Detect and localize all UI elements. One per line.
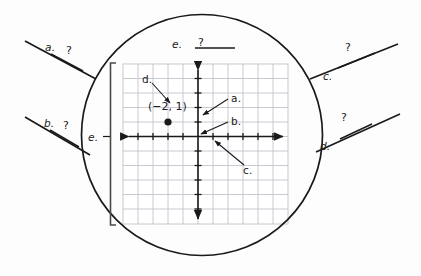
callout-label-c: c. [323, 70, 333, 82]
callout-blank-a[interactable]: ? [66, 44, 72, 57]
leader-a [25, 41, 96, 79]
coordinate-grid [123, 64, 288, 224]
figure-artwork [0, 0, 421, 276]
callout-label-e-left: e. [88, 131, 98, 143]
callout-label-d: d. [320, 140, 330, 152]
callout-label-e-top: e. [172, 38, 182, 50]
blank-line-b[interactable] [50, 130, 79, 147]
plotted-point-marker [164, 118, 171, 125]
inner-label-d: d. [142, 73, 152, 85]
blank-line-d[interactable] [340, 124, 372, 139]
figure-canvas: a. ? b. ? c. ? d. ? e. ? e. a. b. c. d. … [0, 0, 421, 276]
callout-blank-b[interactable]: ? [63, 119, 69, 132]
callout-blank-e-top[interactable]: ? [198, 36, 204, 49]
ordered-pair-label: (−2, 1) [148, 100, 187, 113]
inner-label-c: c. [243, 164, 253, 176]
inner-label-a: a. [231, 92, 241, 104]
callout-label-b: b. [44, 117, 54, 129]
blank-line-c[interactable] [338, 53, 375, 68]
callout-blank-d[interactable]: ? [341, 111, 347, 124]
callout-label-a: a. [45, 41, 55, 53]
inner-label-b: b. [231, 115, 241, 127]
leader-b [25, 117, 90, 155]
callout-blank-c[interactable]: ? [345, 41, 351, 54]
grid-extent-bracket [111, 63, 117, 225]
